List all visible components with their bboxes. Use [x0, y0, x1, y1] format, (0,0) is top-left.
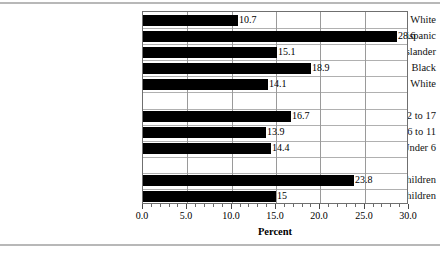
gridline-horizontal — [143, 28, 407, 29]
tick-label: 20.0 — [310, 210, 328, 221]
tick-major — [364, 204, 365, 209]
tick-major — [319, 204, 320, 209]
bar-value-label: 15 — [277, 191, 287, 201]
tick-minor — [346, 204, 347, 207]
bar-value-label: 10.7 — [239, 15, 257, 25]
bar-value-label: 16.7 — [292, 111, 310, 121]
tick-minor — [310, 204, 311, 207]
tick-major — [408, 204, 409, 209]
tick-minor — [177, 204, 178, 207]
tick-label: 30.0 — [399, 210, 417, 221]
tick-minor — [302, 204, 303, 207]
tick-minor — [381, 204, 382, 207]
chart-figure: Non-Hispanic WhiteHispanicAsian or Pacif… — [0, 0, 440, 257]
gridline-horizontal — [143, 44, 407, 45]
tick-minor — [151, 204, 152, 207]
tick-minor — [355, 204, 356, 207]
tick-label: 5.0 — [180, 210, 193, 221]
bar — [143, 191, 276, 202]
bar-value-label: 14.1 — [269, 79, 287, 89]
bar-value-label: 23.8 — [355, 175, 373, 185]
tick-major — [142, 204, 143, 209]
bar-value-label: 18.9 — [312, 63, 330, 73]
gridline-horizontal — [143, 76, 407, 77]
tick-minor — [328, 204, 329, 207]
x-axis-title: Percent — [142, 226, 408, 238]
tick-major — [186, 204, 187, 209]
bar — [143, 143, 271, 154]
bar — [143, 31, 397, 42]
gridline-horizontal — [143, 60, 407, 61]
bar-value-label: 14.4 — [272, 143, 290, 153]
tick-minor — [399, 204, 400, 207]
bar — [143, 111, 291, 122]
tick-major — [275, 204, 276, 209]
tick-label: 15.0 — [266, 210, 284, 221]
bar-value-label: 13.9 — [267, 127, 285, 137]
tick-major — [231, 204, 232, 209]
tick-minor — [373, 204, 374, 207]
bar — [143, 47, 277, 58]
tick-minor — [248, 204, 249, 207]
tick-minor — [240, 204, 241, 207]
tick-minor — [222, 204, 223, 207]
tick-minor — [204, 204, 205, 207]
gridline-horizontal — [143, 92, 407, 93]
page-rule-top — [0, 2, 440, 4]
page-rule-bottom — [0, 244, 440, 246]
bar — [143, 175, 354, 186]
bar — [143, 63, 311, 74]
tick-minor — [293, 204, 294, 207]
tick-minor — [169, 204, 170, 207]
tick-label: 0.0 — [136, 210, 149, 221]
bar — [143, 79, 268, 90]
tick-label: 25.0 — [355, 210, 373, 221]
gridline-horizontal — [143, 109, 407, 110]
tick-minor — [160, 204, 161, 207]
bar — [143, 15, 238, 26]
tick-label: 10.0 — [222, 210, 240, 221]
gridline-horizontal — [143, 189, 407, 190]
bar-value-label: 15.1 — [278, 47, 296, 57]
tick-minor — [257, 204, 258, 207]
bar-value-label: 28.6 — [398, 31, 416, 41]
tick-minor — [337, 204, 338, 207]
bar — [143, 127, 266, 138]
tick-minor — [213, 204, 214, 207]
tick-minor — [284, 204, 285, 207]
gridline-horizontal — [143, 157, 407, 158]
tick-minor — [390, 204, 391, 207]
tick-minor — [266, 204, 267, 207]
tick-minor — [195, 204, 196, 207]
